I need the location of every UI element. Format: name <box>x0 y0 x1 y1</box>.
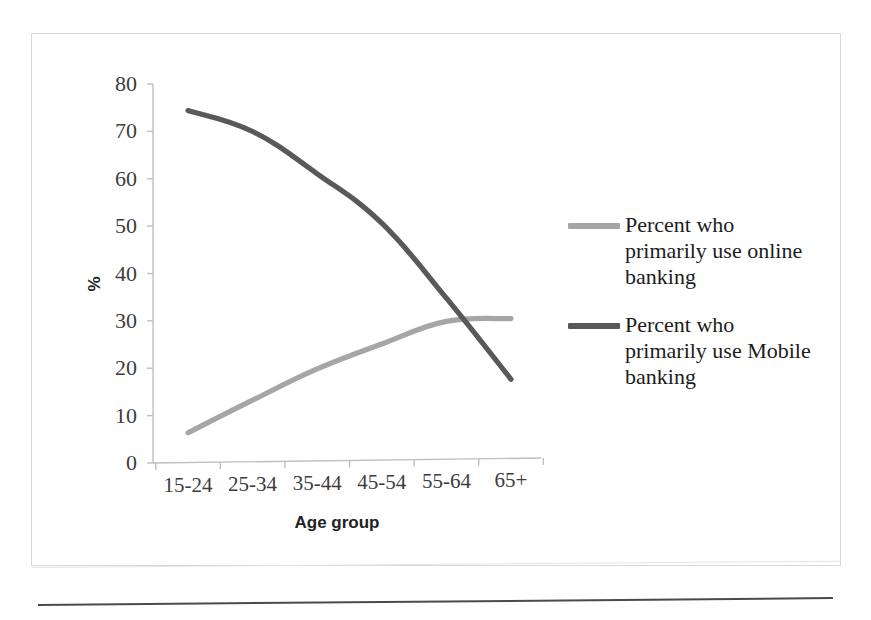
legend-label-online-banking: Percent who primarily use online banking <box>625 212 815 290</box>
data-series-layer <box>188 111 511 433</box>
y-axis-tick-label: 70 <box>85 120 137 142</box>
legend-swatch-mobile-banking <box>568 323 620 329</box>
legend-label-mobile-banking: Percent who primarily use Mobile banking <box>625 312 815 390</box>
y-axis-ticks <box>147 84 153 463</box>
y-axis-tick-label: 50 <box>85 215 137 237</box>
y-axis-tick-label: 10 <box>85 405 137 427</box>
series-line-mobile-banking <box>188 111 511 380</box>
x-axis-tick-label: 15-24 <box>154 475 222 496</box>
legend-item-online-banking: Percent who primarily use online banking <box>568 212 828 290</box>
y-axis-tick-label: 80 <box>85 73 137 95</box>
legend-item-mobile-banking: Percent who primarily use Mobile banking <box>568 312 828 390</box>
x-axis-tick-label: 65+ <box>477 470 545 491</box>
y-axis-tick-label: 60 <box>85 168 137 190</box>
chart-frame: 80706050403020100 15-2425-3435-4445-5455… <box>31 33 841 566</box>
x-axis-tick-label: 55-64 <box>412 471 480 492</box>
figure-page: 80706050403020100 15-2425-3435-4445-5455… <box>0 0 871 620</box>
x-axis-tick-label: 45-54 <box>348 472 416 493</box>
legend-swatch-online-banking <box>568 223 620 229</box>
series-line-online-banking <box>188 318 511 432</box>
y-axis-title: % <box>85 264 105 304</box>
x-axis-tick-label: 35-44 <box>283 473 351 494</box>
plot-area: 80706050403020100 15-2425-3435-4445-5455… <box>32 34 842 567</box>
y-axis-tick-label: 0 <box>85 452 137 474</box>
y-axis-tick-label: 30 <box>85 310 137 332</box>
chart-legend: Percent who primarily use online banking… <box>568 212 828 412</box>
x-axis-line <box>153 458 541 463</box>
page-separator-rule <box>38 597 833 606</box>
y-axis-tick-label: 20 <box>85 357 137 379</box>
x-axis-tick-label: 25-34 <box>219 474 287 495</box>
x-axis-title: Age group <box>152 513 522 533</box>
